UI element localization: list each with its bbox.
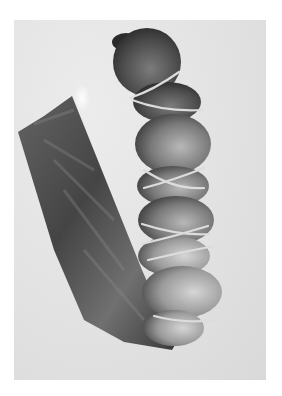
sausage-illustration (14, 20, 266, 380)
photograph (14, 20, 266, 380)
